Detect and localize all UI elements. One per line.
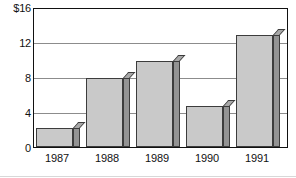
bar-front-1988 — [86, 78, 123, 147]
bar-1988[interactable] — [86, 72, 130, 147]
bar-1987[interactable] — [36, 122, 80, 147]
bars-layer — [34, 9, 287, 147]
y-axis: $16 12 8 4 0 — [0, 0, 31, 178]
scan-artifact-line — [0, 176, 296, 177]
bar-side-1987 — [73, 128, 80, 147]
plot-area — [33, 8, 288, 148]
x-tick-label-1989: 1989 — [135, 152, 179, 165]
y-tick-label-16: $16 — [1, 3, 31, 14]
x-axis: 1987 1988 1989 1990 1991 — [33, 152, 288, 172]
y-tick-label-12: 12 — [1, 38, 31, 49]
bar-side-1991 — [273, 35, 280, 147]
y-tick-label-4: 4 — [1, 108, 31, 119]
bar-1990[interactable] — [186, 100, 230, 147]
bar-front-1990 — [186, 106, 223, 147]
x-tick-label-1991: 1991 — [235, 152, 279, 165]
bar-front-1991 — [236, 35, 273, 147]
x-tick-label-1988: 1988 — [85, 152, 129, 165]
y-tick-label-8: 8 — [1, 73, 31, 84]
bar-1989[interactable] — [136, 55, 180, 147]
bar-front-1989 — [136, 61, 173, 147]
bar-1991[interactable] — [236, 29, 280, 147]
x-tick-label-1990: 1990 — [185, 152, 229, 165]
bar-side-1988 — [123, 78, 130, 147]
y-tick-label-0: 0 — [1, 143, 31, 154]
bar-chart: $16 12 8 4 0 — [0, 0, 296, 178]
x-tick-label-1987: 1987 — [35, 152, 79, 165]
bar-side-1989 — [173, 61, 180, 147]
bar-front-1987 — [36, 128, 73, 147]
bar-side-1990 — [223, 106, 230, 147]
